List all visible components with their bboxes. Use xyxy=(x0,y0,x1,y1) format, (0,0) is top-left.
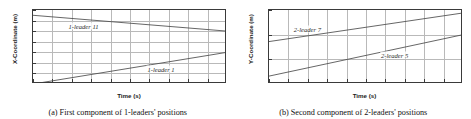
x-axis-label: Time (s) xyxy=(32,92,226,99)
series-line xyxy=(269,35,462,76)
panel-caption: (a) First component of 1-leaders' positi… xyxy=(0,108,236,117)
plot-area: 50-5-10024681012141618202-leader 72-lead… xyxy=(268,9,462,83)
plot-wrapper: Y-Coordinate (m)50-5-1002468101214161820… xyxy=(236,0,471,98)
series-label: 2-leader 7 xyxy=(293,25,322,32)
x-axis-label: Time (s) xyxy=(268,92,462,99)
series-line xyxy=(33,15,226,31)
panel-caption: (b) Second component of 2-leaders' posit… xyxy=(236,108,471,117)
panel-b: Y-Coordinate (m)50-5-1002468101214161820… xyxy=(236,0,471,119)
panel-a: X-Coordinate (m)6420-2-4-6-8024681012141… xyxy=(0,0,236,119)
plot-wrapper: X-Coordinate (m)6420-2-4-6-8024681012141… xyxy=(0,0,236,98)
y-axis-label: X-Coordinate (m) xyxy=(9,0,21,78)
plot-area: 6420-2-4-6-8024681012141618201-leader 11… xyxy=(32,9,226,83)
series-layer xyxy=(269,10,462,83)
series-label: 2-leader 5 xyxy=(380,52,409,59)
series-label: 1-leader 11 xyxy=(67,22,99,29)
figure-two-panel-line-charts: X-Coordinate (m)6420-2-4-6-8024681012141… xyxy=(0,0,471,119)
y-axis-label: Y-Coordinate (m) xyxy=(245,0,257,78)
series-layer xyxy=(33,10,226,83)
series-label: 1-leader 1 xyxy=(146,66,175,73)
series-line xyxy=(33,52,226,83)
